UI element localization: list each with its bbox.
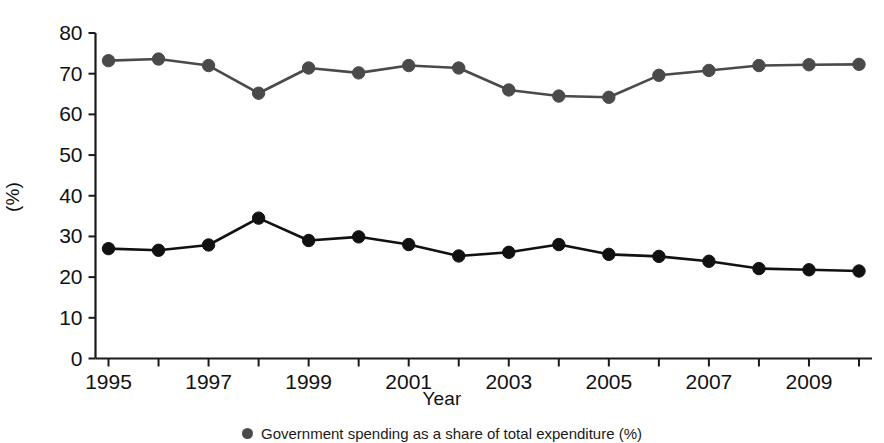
chart-series-lower-series (102, 212, 865, 277)
data-point-marker (202, 239, 214, 251)
data-point-marker (503, 246, 515, 258)
data-point-marker (102, 54, 114, 66)
data-point-marker (453, 250, 465, 262)
y-tick-label: 20 (59, 265, 82, 288)
data-point-marker (302, 62, 314, 74)
data-point-marker (352, 67, 364, 79)
y-tick-label: 10 (59, 306, 82, 329)
legend-label: Government spending as a share of total … (261, 425, 642, 442)
x-axis-title: Year (0, 388, 884, 410)
data-point-marker (603, 248, 615, 260)
y-axis-tick-labels: 01020304050607080 (59, 21, 82, 370)
data-point-marker (152, 53, 164, 65)
y-tick-label: 40 (59, 184, 82, 207)
data-point-marker (803, 59, 815, 71)
y-tick-label: 80 (59, 21, 82, 44)
data-point-marker (653, 250, 665, 262)
data-point-marker (152, 244, 164, 256)
data-point-marker (553, 238, 565, 250)
data-point-marker (803, 264, 815, 276)
chart-legend: Government spending as a share of total … (0, 425, 884, 443)
y-tick-label: 30 (59, 224, 82, 247)
data-point-marker (553, 90, 565, 102)
data-point-marker (403, 238, 415, 250)
chart-series-layer (102, 53, 865, 277)
chart-axes (96, 33, 873, 359)
legend-entry: Government spending as a share of total … (242, 425, 642, 442)
y-axis-title: (%) (2, 162, 24, 232)
data-point-marker (403, 59, 415, 71)
y-tick-label: 60 (59, 102, 82, 125)
data-point-marker (703, 64, 715, 76)
data-point-marker (252, 212, 264, 224)
series-line (109, 59, 860, 97)
data-point-marker (653, 69, 665, 81)
chart-figure: 01020304050607080 1995199719992001200320… (0, 0, 884, 443)
data-point-marker (102, 242, 114, 254)
data-point-marker (603, 91, 615, 103)
legend-marker-icon (242, 428, 253, 439)
data-point-marker (352, 231, 364, 243)
data-point-marker (753, 59, 765, 71)
x-axis-ticks (109, 359, 860, 367)
line-chart-plot: 01020304050607080 1995199719992001200320… (0, 0, 884, 443)
data-point-marker (853, 58, 865, 70)
data-point-marker (853, 265, 865, 277)
data-point-marker (202, 59, 214, 71)
data-point-marker (503, 84, 515, 96)
data-point-marker (252, 87, 264, 99)
series-line (109, 218, 860, 271)
y-tick-label: 50 (59, 143, 82, 166)
data-point-marker (753, 262, 765, 274)
y-tick-label: 70 (59, 62, 82, 85)
chart-series-upper-series (102, 53, 865, 104)
data-point-marker (453, 62, 465, 74)
data-point-marker (302, 234, 314, 246)
data-point-marker (703, 255, 715, 267)
y-tick-label: 0 (71, 347, 83, 370)
